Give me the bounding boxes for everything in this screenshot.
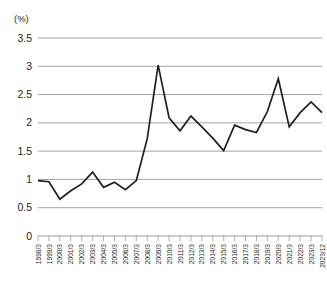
x-axis-tick-label: 2023/12: [319, 244, 326, 268]
y-axis-tick-label: 2: [26, 116, 32, 128]
x-axis-tick-label: 2018/3: [253, 244, 260, 265]
x-axis-tick-label: 2023/3: [308, 244, 315, 265]
x-axis-tick-label: 2019/3: [264, 244, 271, 265]
x-axis-tick-label: 2000/3: [56, 244, 63, 265]
x-axis-tick-label: 2005/3: [111, 244, 118, 265]
x-axis-tick-label: 2002/3: [78, 244, 85, 265]
x-axis-tick-label: 2017/3: [242, 244, 249, 265]
y-axis-tick-label: 3: [26, 60, 32, 72]
x-axis-tick-label: 2022/3: [297, 244, 304, 265]
x-axis-tick-label: 2014/3: [209, 244, 216, 265]
x-axis-tick-label: 2021/3: [286, 244, 293, 265]
y-axis-tick-label: 0: [26, 230, 32, 242]
x-axis-tick-label: 2013/3: [198, 244, 205, 265]
x-axis-tick-label: 1999/3: [46, 244, 53, 265]
x-axis-tick-label: 2011/3: [177, 244, 184, 264]
y-axis-tick-label: 1.5: [17, 145, 32, 157]
line-chart: (%) 00.511.522.533.51998/31999/32000/320…: [0, 0, 327, 288]
x-axis-tick-label: 2009/3: [155, 244, 162, 265]
x-axis-tick-label: 2015/3: [220, 244, 227, 265]
y-axis-tick-label: 1: [26, 173, 32, 185]
x-axis-tick-label: 2001/3: [67, 244, 74, 265]
x-axis-tick-label: 2003/3: [89, 244, 96, 265]
x-axis-tick-label: 2007/3: [133, 244, 140, 265]
x-axis-tick-label: 2020/3: [275, 244, 282, 265]
chart-plot-area: 00.511.522.533.51998/31999/32000/32001/3…: [0, 0, 327, 288]
x-axis-tick-label: 2006/3: [122, 244, 129, 265]
x-axis-tick-label: 2004/3: [100, 244, 107, 265]
x-axis-tick-label: 2010/3: [166, 244, 173, 265]
y-axis-tick-label: 0.5: [17, 201, 32, 213]
y-axis-tick-label: 3.5: [17, 32, 32, 44]
x-axis-tick-label: 2008/3: [144, 244, 151, 265]
x-axis-tick-label: 2016/3: [231, 244, 238, 265]
x-axis-tick-label: 1998/3: [35, 244, 42, 265]
y-axis-tick-label: 2.5: [17, 88, 32, 100]
x-axis-tick-label: 2012/3: [188, 244, 195, 265]
